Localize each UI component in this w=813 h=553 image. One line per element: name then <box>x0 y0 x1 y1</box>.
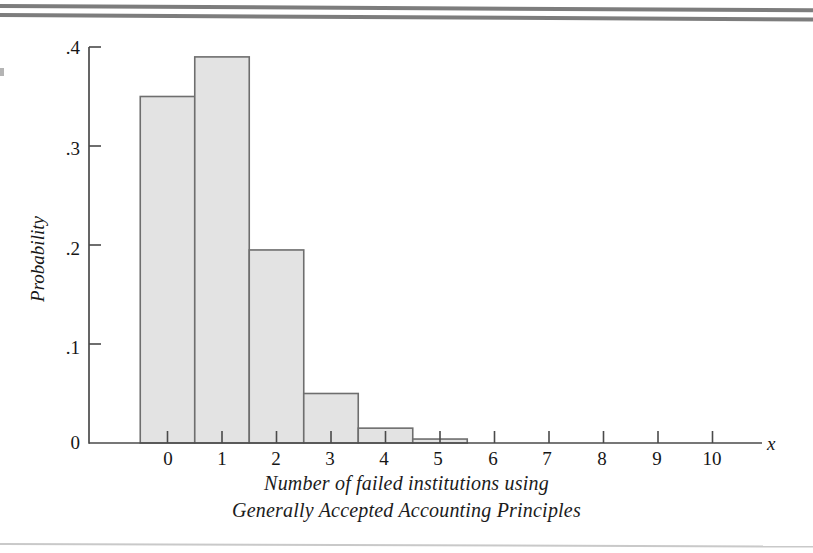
x-tick-label-5: 5 <box>416 448 460 470</box>
caption-line-2: Generally Accepted Accounting Principles <box>0 497 813 524</box>
x-tick-label-6: 6 <box>471 448 515 470</box>
x-tick-label-2: 2 <box>254 448 298 470</box>
bars-group <box>140 57 467 443</box>
x-tick-label-0: 0 <box>146 448 190 470</box>
x-tick-label-7: 7 <box>525 448 569 470</box>
histogram-bar <box>249 250 304 443</box>
x-axis-variable-symbol: x <box>767 433 775 455</box>
x-tick-label-8: 8 <box>580 448 624 470</box>
figure-page: .4 .3 .2 .1 0 0 1 2 3 4 5 6 7 8 9 10 Pro… <box>0 0 813 553</box>
figure-caption: Number of failed institutions using Gene… <box>0 470 813 524</box>
x-tick-label-1: 1 <box>200 448 244 470</box>
caption-line-1: Number of failed institutions using <box>0 470 813 497</box>
x-tick-label-4: 4 <box>362 448 406 470</box>
y-tick-label-3: .3 <box>38 138 80 160</box>
y-axis-title: Probability <box>27 199 49 319</box>
y-tick-label-0: 0 <box>38 432 80 454</box>
y-tick-label-1: .1 <box>38 337 80 359</box>
y-tick-label-4: .4 <box>38 37 80 59</box>
histogram-bar <box>195 57 250 443</box>
x-tick-label-3: 3 <box>308 448 352 470</box>
x-tick-label-9: 9 <box>635 448 679 470</box>
histogram-bar <box>140 97 195 444</box>
x-tick-label-10: 10 <box>690 448 734 470</box>
